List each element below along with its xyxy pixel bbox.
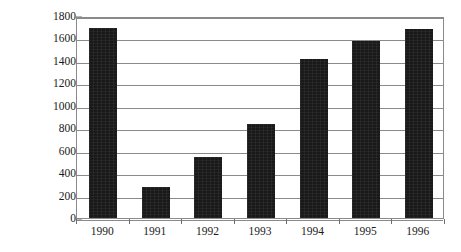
bar-chart: billion USD 0200400600800100012001400160… xyxy=(0,0,461,252)
bar xyxy=(300,59,328,218)
y-axis-tick-label: 200 xyxy=(32,191,76,203)
x-axis-tick-mark xyxy=(444,219,445,224)
bar-slot xyxy=(392,18,445,218)
x-axis-tick-label: 1996 xyxy=(406,225,429,238)
bar-slot xyxy=(235,18,288,218)
x-axis-tick-mark xyxy=(129,219,130,224)
x-axis-tick-mark xyxy=(286,219,287,224)
y-axis-tick-label: 1600 xyxy=(32,34,76,46)
y-axis-tick-label: 800 xyxy=(32,123,76,135)
x-axis-tick-mark xyxy=(181,219,182,224)
y-axis-tick-label: 1800 xyxy=(32,11,76,23)
plot-area xyxy=(76,17,444,219)
x-axis-tick-label: 1992 xyxy=(196,225,219,238)
x-axis-tick-group: 1990199119921993199419951996 xyxy=(76,219,444,252)
x-axis-tick-label: 1991 xyxy=(143,225,166,238)
y-axis-tick-label: 0 xyxy=(32,213,76,225)
x-axis-tick-label: 1993 xyxy=(249,225,272,238)
x-axis-tick-mark xyxy=(76,219,77,224)
bar-slot xyxy=(287,18,340,218)
x-axis-tick-label: 1995 xyxy=(354,225,377,238)
y-axis-tick-label: 600 xyxy=(32,146,76,158)
bar xyxy=(142,187,170,218)
x-axis-tick-label: 1990 xyxy=(91,225,114,238)
y-axis-tick-label: 1400 xyxy=(32,56,76,68)
y-axis-tick-label: 1000 xyxy=(32,101,76,113)
bars-group xyxy=(77,18,443,218)
y-axis-tick-label: 400 xyxy=(32,168,76,180)
bar-slot xyxy=(77,18,130,218)
bar xyxy=(405,29,433,218)
bar-slot xyxy=(130,18,183,218)
bar xyxy=(194,157,222,218)
x-axis-tick-label: 1994 xyxy=(301,225,324,238)
bar-slot xyxy=(340,18,393,218)
bar xyxy=(89,28,117,218)
bar xyxy=(247,124,275,218)
bar xyxy=(352,41,380,218)
y-axis-tick-group: 020040060080010001200140016001800 xyxy=(22,17,76,219)
bar-slot xyxy=(182,18,235,218)
x-axis-tick-mark xyxy=(339,219,340,224)
x-axis-tick-mark xyxy=(391,219,392,224)
y-axis-tick-label: 1200 xyxy=(32,79,76,91)
x-axis-tick-mark xyxy=(234,219,235,224)
